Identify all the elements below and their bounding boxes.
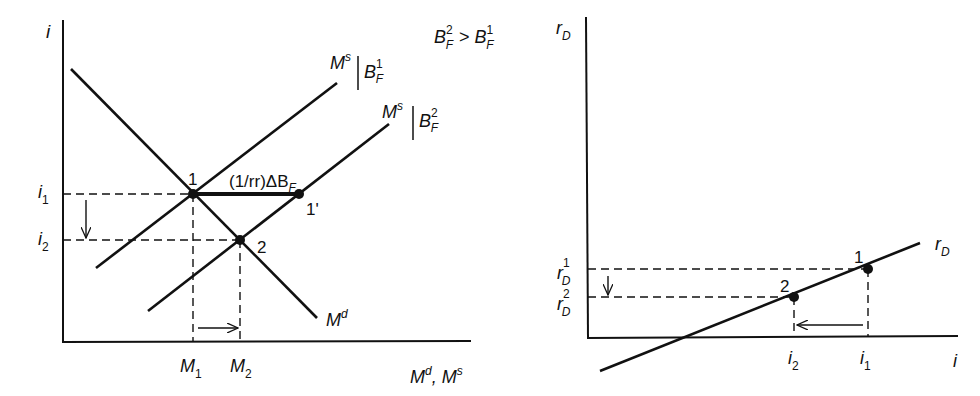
right-point-1 bbox=[863, 264, 873, 274]
i1-tick-label: i1 bbox=[38, 182, 49, 207]
right-panel: rD i rD 1 2 r1D r2D i2 i1 bbox=[556, 17, 958, 373]
right-point-2-label: 2 bbox=[780, 277, 789, 296]
equilibrium-point-1 bbox=[188, 189, 198, 199]
money-supply-curve-1 bbox=[96, 83, 337, 268]
money-supply-curve-2 bbox=[148, 124, 389, 311]
svg-text:B2F: B2F bbox=[419, 106, 439, 135]
shift-magnitude-label: (1/rr)ΔBF bbox=[229, 172, 297, 195]
bond-condition-label: B2F>B1F bbox=[434, 23, 494, 52]
svg-text:B1F: B1F bbox=[364, 57, 384, 86]
rd1-tick-label: r1D bbox=[557, 256, 571, 288]
point-1-label: 1 bbox=[188, 170, 197, 189]
left-y-axis-label: i bbox=[46, 21, 51, 42]
money-supply-1-label: Ms B1F bbox=[330, 50, 384, 90]
money-supply-2-label: Ms B2F bbox=[382, 99, 439, 140]
deposit-rate-curve-label: rD bbox=[935, 234, 950, 259]
i2-right-tick-label: i2 bbox=[788, 348, 799, 373]
money-demand-label: Md bbox=[326, 307, 348, 330]
left-x-axis bbox=[62, 341, 471, 342]
diagram-canvas: i Md, Ms B2F>B1F Ms B1F Ms B2F Md (1/rr)… bbox=[0, 0, 980, 396]
left-x-axis-label: Md, Ms bbox=[410, 364, 463, 387]
right-x-axis bbox=[587, 336, 958, 338]
deposit-rate-curve bbox=[600, 243, 920, 371]
svg-text:Ms: Ms bbox=[382, 99, 403, 122]
rd2-tick-label: r2D bbox=[557, 287, 571, 319]
right-point-2 bbox=[789, 292, 799, 302]
left-dashed-guides bbox=[63, 194, 240, 342]
right-x-axis-label: i bbox=[953, 351, 958, 371]
right-y-axis bbox=[586, 17, 588, 338]
i1-right-tick-label: i1 bbox=[860, 348, 871, 373]
i2-tick-label: i2 bbox=[38, 229, 49, 254]
m1-tick-label: M1 bbox=[180, 356, 202, 381]
right-point-1-label: 1 bbox=[854, 248, 863, 267]
equilibrium-point-2 bbox=[235, 235, 245, 245]
point-1-prime-label: 1' bbox=[306, 200, 319, 219]
left-panel: i Md, Ms B2F>B1F Ms B1F Ms B2F Md (1/rr)… bbox=[38, 20, 494, 387]
point-2-label: 2 bbox=[257, 238, 266, 257]
m2-tick-label: M2 bbox=[230, 356, 252, 381]
svg-text:Ms: Ms bbox=[330, 50, 351, 73]
right-y-axis-label: rD bbox=[556, 18, 571, 43]
